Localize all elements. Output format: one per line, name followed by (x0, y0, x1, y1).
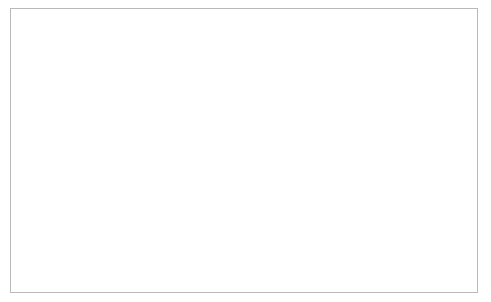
chart-frame (10, 8, 478, 293)
chart-container: 0200004000060000800001000001200001995199… (0, 0, 491, 302)
